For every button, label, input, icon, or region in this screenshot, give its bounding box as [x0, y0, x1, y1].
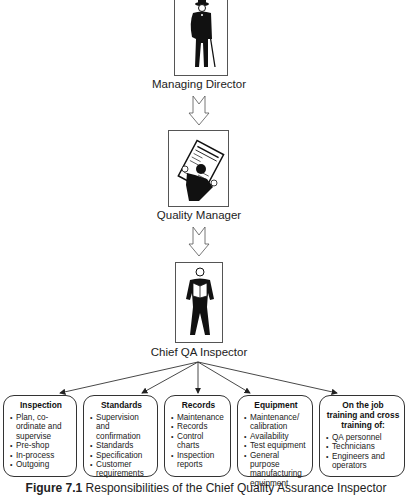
- list-item: Availability: [244, 432, 308, 441]
- card-title: Inspection: [10, 400, 72, 410]
- card-item-list: Maintenance/ calibration Availability Te…: [244, 413, 308, 488]
- list-item: Specification: [90, 451, 153, 460]
- card-inspection: Inspection Plan, co-ordinate and supervi…: [3, 395, 77, 477]
- figure-label: Figure 7.1: [26, 481, 83, 495]
- down-arrow-qm-to-cqi: [189, 227, 209, 256]
- list-item: QA personnel: [326, 433, 400, 442]
- card-equipment: Equipment Maintenance/ calibration Avail…: [237, 395, 313, 477]
- list-item: Pre-shop: [10, 441, 72, 450]
- man-reading-newspaper-icon: [169, 131, 230, 208]
- card-item-list: Supervision and confirmation Standards S…: [90, 413, 153, 479]
- list-item: Customer requirements: [90, 460, 153, 479]
- list-item: In-process: [10, 451, 72, 460]
- down-arrow-md-to-qm: [189, 96, 209, 125]
- list-item: Test equipment: [244, 441, 308, 450]
- list-item: Inspection reports: [171, 451, 226, 470]
- quality-manager-box: [168, 130, 229, 207]
- list-item: Control charts: [171, 432, 226, 451]
- card-title: On the job training and cross training o…: [326, 400, 400, 430]
- list-item: Outgoing: [10, 460, 72, 469]
- list-item: Engineers and operators: [326, 452, 400, 471]
- list-item: Maintenance/ calibration: [244, 413, 308, 432]
- card-item-list: Maintenance Records Control charts Inspe…: [171, 413, 226, 469]
- role-label-managing-director: Managing Director: [129, 78, 269, 90]
- card-title: Equipment: [244, 400, 308, 410]
- card-training: On the job training and cross training o…: [319, 395, 405, 477]
- man-with-cane-icon: [175, 0, 229, 77]
- list-item: Supervision and confirmation: [90, 413, 153, 441]
- card-item-list: Plan, co-ordinate and supervise Pre-shop…: [10, 413, 72, 469]
- card-item-list: QA personnel Technicians Engineers and o…: [326, 433, 400, 471]
- list-item: Maintenance: [171, 413, 226, 422]
- card-standards: Standards Supervision and confirmation S…: [83, 395, 158, 477]
- card-title: Standards: [90, 400, 153, 410]
- list-item: Plan, co-ordinate and supervise: [10, 413, 72, 441]
- chief-qa-inspector-box: [175, 262, 223, 343]
- man-reading-book-icon: [176, 263, 224, 344]
- figure-caption: Figure 7.1 Responsibilities of the Chief…: [0, 481, 412, 495]
- card-title: Records: [171, 400, 226, 410]
- role-label-chief-qa-inspector: Chief QA Inspector: [129, 346, 269, 358]
- list-item: Standards: [90, 441, 153, 450]
- list-item: Technicians: [326, 442, 400, 451]
- role-label-quality-manager: Quality Manager: [129, 209, 269, 221]
- card-records: Records Maintenance Records Control char…: [164, 395, 231, 477]
- fan-out-arrows: [60, 362, 337, 393]
- managing-director-box: [174, 0, 228, 76]
- figure-caption-text: Responsibilities of the Chief Quality As…: [86, 481, 387, 495]
- list-item: Records: [171, 422, 226, 431]
